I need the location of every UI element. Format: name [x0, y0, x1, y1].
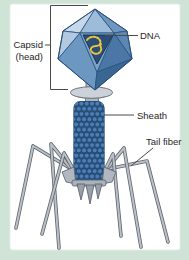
sheath [74, 101, 105, 183]
bacteriophage-figure: Capsid (head) DNA Sheath Tail fiber [0, 0, 189, 260]
sheath-label: Sheath [137, 110, 167, 121]
collar-flange [71, 87, 113, 99]
bacteriophage-diagram: Capsid (head) DNA Sheath Tail fiber [0, 0, 189, 260]
capsid-label-line2: (head) [16, 51, 43, 62]
capsid-label-line1: Capsid [13, 39, 43, 50]
sheath-beads [74, 101, 105, 183]
tail-fiber-label: Tail fiber [146, 136, 181, 147]
dna-label: DNA [140, 30, 161, 41]
